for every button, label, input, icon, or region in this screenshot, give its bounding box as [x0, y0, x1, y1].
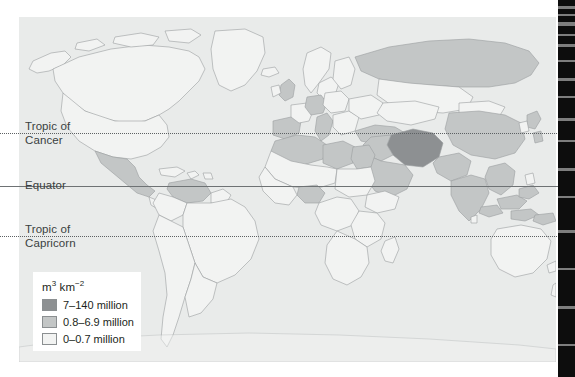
legend-label-high: 7–140 million — [63, 299, 128, 311]
legend-unit-m: m — [42, 281, 52, 293]
equator-label: Equator — [25, 179, 66, 193]
map-legend: m3 km−2 7–140 million 0.8–6.9 million 0–… — [33, 272, 141, 351]
legend-swatch-medium — [42, 316, 57, 328]
legend-swatch-low — [42, 333, 57, 345]
legend-title: m3 km−2 — [42, 279, 141, 293]
legend-item-medium[interactable]: 0.8–6.9 million — [42, 315, 141, 329]
tropic-of-cancer-label: Tropic of Cancer — [25, 120, 70, 147]
legend-unit-exp-minus2: −2 — [75, 279, 84, 288]
tropic-of-capricorn-label: Tropic of Capricorn — [25, 223, 76, 250]
legend-label-low: 0–0.7 million — [63, 333, 125, 345]
cropped-side-panel — [558, 0, 575, 377]
figure-container: .cn{stroke:#9a9e9f;stroke-width:.6;strok… — [0, 0, 575, 377]
legend-unit-km: km — [56, 281, 75, 293]
legend-item-high[interactable]: 7–140 million — [42, 298, 141, 312]
legend-swatch-high — [42, 299, 57, 311]
legend-label-medium: 0.8–6.9 million — [63, 316, 134, 328]
legend-item-low[interactable]: 0–0.7 million — [42, 332, 141, 346]
